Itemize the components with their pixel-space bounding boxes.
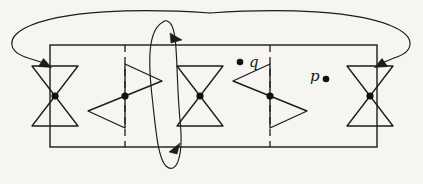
arrowhead-ellipse-top (170, 33, 182, 43)
vertex-dot-center (196, 92, 203, 99)
figure-canvas: q p (0, 0, 423, 184)
figure-drawing: q p (0, 0, 423, 184)
point-q-dot (237, 59, 244, 66)
point-p-dot (323, 76, 330, 83)
vertex-dot-horizontal-right (266, 92, 273, 99)
vertex-dot-right-edge (366, 92, 373, 99)
vertical-identification-ellipse (150, 21, 182, 169)
point-p: p (310, 67, 329, 85)
fundamental-domain-rectangle (50, 45, 377, 147)
bowtie-vertical-right-edge (347, 66, 393, 126)
horizontal-identification-arc (12, 11, 410, 68)
bowtie-horizontal-left (88, 64, 162, 128)
bowtie-vertical-left-edge (32, 66, 78, 126)
point-q: q (237, 53, 259, 71)
point-q-label: q (249, 53, 259, 71)
point-p-label: p (310, 67, 320, 85)
vertex-dot-left-edge (51, 92, 58, 99)
bowtie-vertical-center (177, 66, 223, 126)
vertex-dot-horizontal-left (121, 92, 128, 99)
bowtie-horizontal-right (233, 64, 307, 128)
arrowhead-ellipse-bottom (169, 143, 180, 154)
